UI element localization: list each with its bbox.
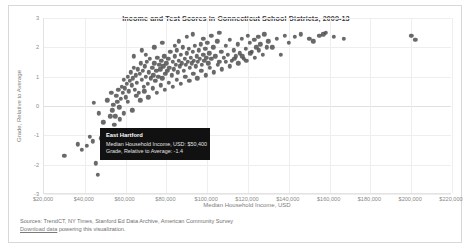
scatter-point[interactable] [311, 39, 315, 43]
scatter-point[interactable] [118, 96, 122, 100]
scatter-point[interactable] [191, 72, 195, 76]
scatter-point[interactable] [331, 35, 335, 39]
scatter-point[interactable] [197, 48, 201, 52]
scatter-point[interactable] [199, 42, 203, 46]
scatter-point[interactable] [159, 58, 163, 62]
download-data-link[interactable]: Download data [20, 226, 57, 232]
scatter-point[interactable] [174, 48, 178, 52]
scatter-point[interactable] [191, 32, 195, 36]
scatter-point[interactable] [160, 76, 164, 80]
scatter-point[interactable] [217, 30, 221, 34]
scatter-point[interactable] [141, 69, 145, 73]
scatter-point[interactable] [110, 108, 114, 112]
scatter-point[interactable] [209, 33, 213, 37]
scatter-point[interactable] [148, 57, 152, 61]
scatter-point[interactable] [191, 50, 195, 54]
scatter-point[interactable] [201, 36, 205, 40]
scatter-point[interactable] [212, 70, 216, 74]
scatter-point[interactable] [80, 148, 84, 152]
scatter-point[interactable] [158, 83, 162, 87]
scatter-point[interactable] [150, 86, 154, 90]
scatter-point[interactable] [75, 142, 79, 146]
scatter-point[interactable] [105, 98, 109, 102]
scatter-point[interactable] [213, 54, 217, 58]
scatter-point[interactable] [265, 45, 269, 49]
scatter-point[interactable] [224, 60, 228, 64]
scatter-point[interactable] [144, 74, 148, 78]
scatter-point[interactable] [185, 35, 189, 39]
scatter-point[interactable] [258, 42, 262, 46]
scatter-point[interactable] [256, 35, 260, 39]
scatter-point[interactable] [185, 51, 189, 55]
scatter-point[interactable] [266, 39, 270, 43]
scatter-point[interactable] [283, 33, 287, 37]
scatter-point[interactable] [228, 64, 232, 68]
scatter-point[interactable] [179, 82, 183, 86]
scatter-point[interactable] [152, 45, 156, 49]
scatter-point[interactable] [97, 111, 101, 115]
scatter-point[interactable] [215, 39, 219, 43]
scatter-point[interactable] [227, 38, 231, 42]
scatter-point[interactable] [146, 82, 150, 86]
scatter-point[interactable] [342, 36, 346, 40]
scatter-point[interactable] [138, 98, 142, 102]
scatter-point[interactable] [248, 51, 252, 55]
scatter-point[interactable] [270, 45, 274, 49]
scatter-point[interactable] [207, 66, 211, 70]
scatter-point[interactable] [132, 54, 136, 58]
scatter-point[interactable] [108, 114, 112, 118]
scatter-point[interactable] [219, 50, 223, 54]
scatter-point[interactable] [101, 120, 105, 124]
scatter-point[interactable] [135, 80, 139, 84]
scatter-point[interactable] [92, 101, 96, 105]
scatter-point[interactable] [248, 41, 252, 45]
scatter-point[interactable] [171, 85, 175, 89]
scatter-point[interactable] [278, 52, 282, 56]
scatter-point[interactable] [172, 54, 176, 58]
scatter-point[interactable] [152, 61, 156, 65]
scatter-point[interactable] [236, 42, 240, 46]
scatter-point[interactable] [211, 45, 215, 49]
scatter-point[interactable] [118, 117, 122, 121]
scatter-point[interactable] [200, 63, 204, 67]
scatter-point[interactable] [143, 64, 147, 68]
scatter-point[interactable] [207, 51, 211, 55]
scatter-point[interactable] [252, 38, 256, 42]
scatter-point[interactable] [182, 69, 186, 73]
scatter-point[interactable] [236, 61, 240, 65]
scatter-point[interactable] [260, 52, 264, 56]
scatter-point[interactable] [96, 173, 100, 177]
scatter-point[interactable] [167, 80, 171, 84]
scatter-point[interactable] [175, 77, 179, 81]
scatter-point[interactable] [178, 52, 182, 56]
scatter-point[interactable] [409, 33, 413, 37]
scatter-point[interactable] [225, 52, 229, 56]
scatter-point[interactable] [142, 89, 146, 93]
scatter-point[interactable] [256, 48, 260, 52]
scatter-point[interactable] [168, 50, 172, 54]
scatter-point[interactable] [195, 76, 199, 80]
scatter-point[interactable] [413, 38, 417, 42]
scatter-point[interactable] [153, 79, 157, 83]
scatter-point[interactable] [199, 69, 203, 73]
scatter-point[interactable] [134, 94, 138, 98]
scatter-point[interactable] [146, 95, 150, 99]
scatter-point[interactable] [209, 57, 213, 61]
scatter-point[interactable] [220, 67, 224, 71]
scatter-point[interactable] [188, 66, 192, 70]
scatter-point[interactable] [240, 36, 244, 40]
scatter-point[interactable] [112, 123, 116, 127]
scatter-point[interactable] [287, 41, 291, 45]
scatter-point[interactable] [176, 39, 180, 43]
scatter-point[interactable] [91, 139, 95, 143]
scatter-plot-area[interactable] [43, 18, 451, 194]
scatter-point[interactable] [144, 52, 148, 56]
scatter-point[interactable] [62, 154, 66, 158]
scatter-point[interactable] [205, 41, 209, 45]
scatter-point[interactable] [293, 35, 297, 39]
scatter-point[interactable] [274, 36, 278, 40]
scatter-point[interactable] [323, 30, 327, 34]
scatter-point[interactable] [175, 70, 179, 74]
scatter-point[interactable] [183, 74, 187, 78]
scatter-point[interactable] [194, 64, 198, 68]
